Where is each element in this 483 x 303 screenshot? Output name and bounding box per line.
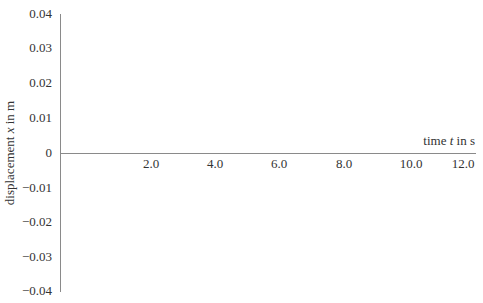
displacement-time-chart: 0.04 0.03 0.02 0.01 0 −0.01 −0.02 −0.03 … <box>0 0 483 303</box>
y-tick-label: −0.03 <box>0 250 52 264</box>
x-axis-title: time t in s <box>423 133 475 149</box>
y-tick-label: −0.04 <box>0 284 52 298</box>
y-axis-title: displacement x in m <box>2 101 18 205</box>
x-tick-label: 2.0 <box>131 157 171 171</box>
x-tick-label: 8.0 <box>324 157 364 171</box>
x-tick-label: 6.0 <box>259 157 299 171</box>
x-tick-label: 10.0 <box>391 157 431 171</box>
x-axis-line <box>60 153 476 154</box>
y-tick-label: 0.02 <box>0 76 52 90</box>
y-tick-label: 0.04 <box>0 7 52 21</box>
x-tick-label: 12.0 <box>443 157 483 171</box>
y-tick-label: −0.02 <box>0 215 52 229</box>
y-tick-label: 0.03 <box>0 41 52 55</box>
x-tick-label: 4.0 <box>195 157 235 171</box>
